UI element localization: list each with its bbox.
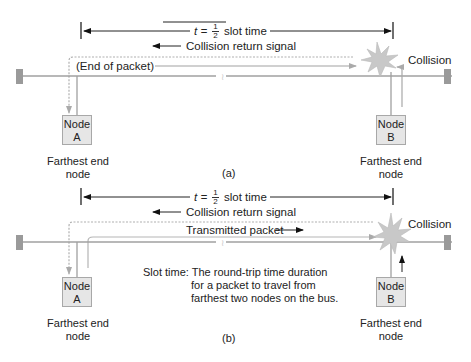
bus-terminator-left bbox=[16, 69, 23, 84]
node-a-box-a: Node A bbox=[62, 115, 92, 145]
slot-time-definition: Slot time: The round-trip time duration … bbox=[143, 266, 338, 305]
panel-b-sublabel: (b) bbox=[222, 332, 235, 344]
node-id: A bbox=[63, 293, 91, 306]
fraction-one-half: 12 bbox=[212, 23, 218, 40]
node-label: Node bbox=[63, 118, 91, 131]
node-id: B bbox=[377, 293, 405, 306]
svg-text:≀: ≀ bbox=[221, 238, 224, 248]
slot-time-term: Slot time: bbox=[143, 266, 189, 278]
end-of-packet-label: (End of packet) bbox=[75, 60, 155, 73]
svg-text:≀: ≀ bbox=[221, 72, 224, 82]
transmitted-packet-label: Transmitted packet bbox=[186, 224, 283, 237]
slot-time-def-line-2: for a packet to travel from bbox=[143, 279, 338, 292]
collision-return-signal-label-b: Collision return signal bbox=[186, 206, 296, 219]
node-label: Node bbox=[377, 118, 405, 131]
panel-a-sublabel: (a) bbox=[222, 167, 235, 179]
node-label: Node bbox=[377, 280, 405, 293]
node-b-box-b: Node B bbox=[376, 277, 406, 307]
t-equals: t = bbox=[194, 25, 210, 37]
node-b-signal-path bbox=[397, 67, 402, 107]
node-b-caption-a: Farthest end node bbox=[353, 155, 429, 181]
bus-terminator-left bbox=[16, 235, 23, 250]
bus-terminator-right bbox=[444, 69, 451, 84]
collision-label-b: Collision bbox=[408, 218, 451, 231]
slot-time-def-line-3: farthest two nodes on the bus. bbox=[143, 292, 338, 305]
node-id: B bbox=[377, 131, 405, 144]
collision-label-a: Collision bbox=[408, 54, 451, 67]
slot-time-text: slot time bbox=[221, 25, 267, 37]
node-b-box-a: Node B bbox=[376, 115, 406, 145]
t-equals: t = bbox=[194, 191, 210, 203]
fraction-one-half: 12 bbox=[212, 189, 218, 206]
node-label: Node bbox=[63, 280, 91, 293]
node-a-caption-b: Farthest end node bbox=[40, 317, 116, 343]
node-b-caption-b: Farthest end node bbox=[353, 317, 429, 343]
t-half-slot-label-b: t = 12 slot time bbox=[191, 189, 270, 206]
diagram-graphics: ≀ ≀ bbox=[0, 0, 471, 362]
collision-burst-icon bbox=[361, 42, 398, 77]
collision-burst-icon bbox=[373, 213, 411, 254]
collision-return-signal-label-a: Collision return signal bbox=[186, 40, 296, 53]
node-a-box-b: Node A bbox=[62, 277, 92, 307]
node-a-caption-a: Farthest end node bbox=[40, 155, 116, 181]
slot-time-def-line-1: The round-trip time duration bbox=[192, 266, 328, 278]
bus-terminator-right bbox=[444, 235, 451, 250]
slot-time-text: slot time bbox=[221, 191, 267, 203]
node-id: A bbox=[63, 131, 91, 144]
t-half-slot-label-a: t = 12 slot time bbox=[191, 23, 270, 40]
